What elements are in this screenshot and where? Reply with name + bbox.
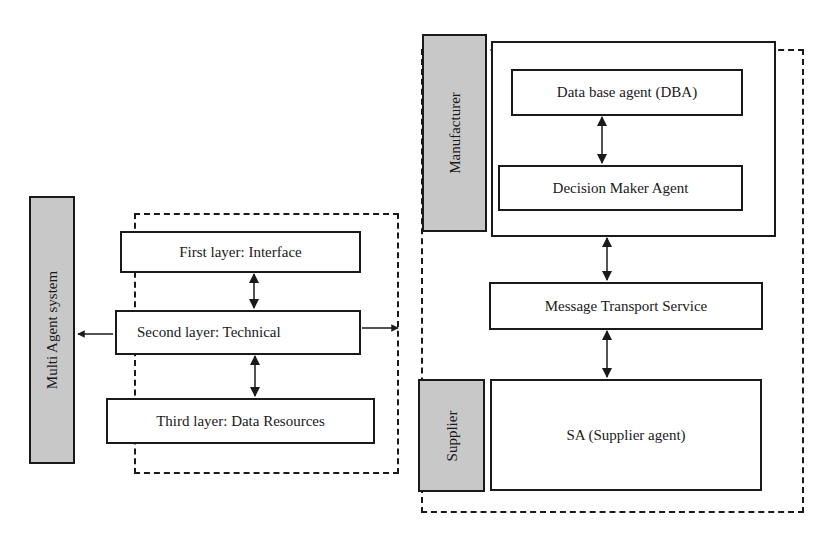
connector-arrows	[0, 0, 833, 538]
